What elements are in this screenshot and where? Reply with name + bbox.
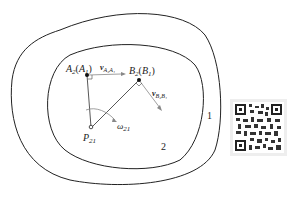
kinematics-diagram: A2(A1) B2(B1) P21 vA₂A₁ vB₂B₁ ω21 1 2: [0, 0, 293, 197]
label-vA: vA₂A₁: [100, 63, 115, 73]
vector-vA: [88, 74, 121, 75]
label-omega: ω21: [117, 121, 130, 133]
label-B: B2(B1): [129, 65, 155, 78]
label-A: A2(A1): [65, 63, 92, 76]
label-vB: vB₂B₁: [152, 89, 167, 99]
label-region-2: 2: [161, 141, 166, 152]
line-A-P: [87, 75, 91, 127]
pole-P-icon: [89, 125, 93, 129]
label-P: P21: [82, 132, 96, 145]
line-B-P: [92, 80, 139, 127]
arrowhead-vB-icon: [157, 105, 162, 111]
arrowhead-vA-icon: [121, 72, 126, 76]
point-B-icon: [137, 78, 141, 82]
qr-code: [230, 99, 287, 156]
outer-body-outline: [11, 14, 220, 185]
label-region-1: 1: [207, 110, 212, 121]
